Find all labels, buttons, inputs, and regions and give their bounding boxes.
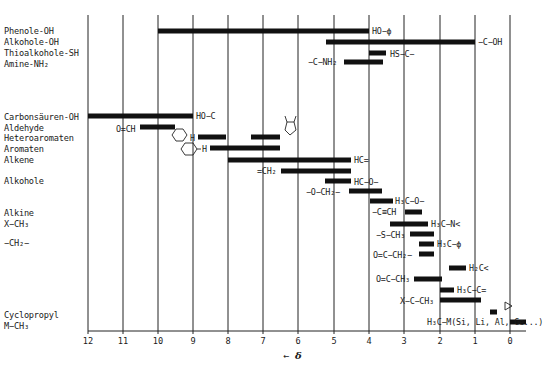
x-axis-title: ← δ	[283, 350, 302, 361]
structure-annotation: −C−NH₂	[308, 58, 337, 67]
category-label: Alkohole	[4, 176, 44, 186]
structure-annotation: =CH₂	[257, 167, 276, 176]
structure-annotation: −C−OH	[478, 38, 502, 47]
range-bar	[326, 40, 475, 45]
structure-annotation: H₃C−ϕ	[437, 240, 461, 249]
structure-annotation: HC=	[354, 156, 369, 165]
x-tick-label: 5	[324, 336, 344, 346]
range-bar	[390, 222, 428, 227]
benzene-icon	[181, 143, 201, 155]
range-bar	[490, 310, 497, 315]
structure-annotation: H₃C−N<	[431, 220, 460, 229]
x-tick-label: 3	[394, 336, 414, 346]
category-label: Alkine	[4, 208, 34, 218]
range-bar	[449, 266, 466, 271]
x-tick-label: 7	[253, 336, 273, 346]
range-bar	[414, 277, 442, 282]
category-label: Carbonsäuren-OH	[4, 112, 79, 122]
structure-annotation: H₃C−O−	[395, 197, 424, 206]
category-label: Heteroaromaten	[4, 133, 74, 143]
range-bar	[349, 189, 382, 194]
category-label: X−CH₃	[4, 219, 29, 229]
x-tick-label: 1	[465, 336, 485, 346]
structure-annotation: H	[202, 145, 207, 154]
category-label: Aldehyde	[4, 123, 44, 133]
category-label: M−CH₃	[4, 321, 29, 331]
structure-annotation: H₃C−C=	[457, 286, 486, 295]
structure-annotation: H₃C−M(Si, Li, Al, Ge...)	[427, 318, 543, 327]
category-label: Thioalkohole-SH	[4, 48, 79, 58]
x-tick-label: 12	[78, 336, 98, 346]
structure-annotation: −S−CH₃	[376, 231, 405, 240]
x-tick-label: 6	[288, 336, 308, 346]
structure-annotation: HS−C−	[390, 50, 414, 59]
structure-annotation: H	[190, 134, 195, 143]
category-label: Alkohole-OH	[4, 37, 59, 47]
arrow-left-icon: ←	[283, 350, 289, 361]
cyclopropane-icon	[505, 302, 512, 310]
range-bar	[158, 29, 369, 34]
x-tick-label: 9	[183, 336, 203, 346]
category-label: Phenole-OH	[4, 26, 54, 36]
shift-range-bars	[88, 29, 526, 325]
structure-annotation: HC−O−	[354, 178, 378, 187]
structure-annotation: H₂C<	[469, 264, 488, 273]
structure-annotation: −O−CH₂−	[306, 188, 340, 197]
x-tick-label: 8	[218, 336, 238, 346]
category-label: Cyclopropyl	[4, 310, 59, 320]
range-bar	[140, 125, 175, 130]
x-tick-label: 4	[359, 336, 379, 346]
range-bar	[251, 135, 280, 140]
category-label: Amine-NH₂	[4, 59, 49, 69]
structure-annotation: HO−C	[196, 112, 215, 121]
structure-annotation: −C≡CH	[372, 208, 396, 217]
range-bar	[440, 298, 481, 303]
range-bar	[405, 210, 422, 215]
structure-annotation: O=CH	[116, 125, 135, 134]
delta-symbol: δ	[295, 350, 302, 361]
range-bar	[325, 179, 351, 184]
category-label: Alkene	[4, 155, 34, 165]
x-tick-label: 0	[500, 336, 520, 346]
range-bar	[419, 252, 434, 257]
pyrrole-icon	[285, 116, 296, 135]
range-bar	[198, 135, 226, 140]
x-tick-label: 11	[113, 336, 133, 346]
range-bar	[344, 60, 383, 65]
range-bar	[210, 146, 280, 151]
structure-annotation: X−C−CH₃	[400, 297, 434, 306]
range-bar	[440, 288, 454, 293]
range-bar	[281, 169, 351, 174]
range-bar	[88, 114, 193, 119]
vertical-gridlines	[88, 15, 510, 334]
category-label: Aromaten	[4, 144, 44, 154]
pyridine-icon	[172, 129, 187, 141]
range-bar	[228, 158, 351, 163]
range-bar	[369, 51, 386, 56]
structure-annotation: O=C−CH₂−	[373, 251, 412, 260]
x-tick-label: 2	[430, 336, 450, 346]
category-label: −CH₂−	[4, 238, 29, 248]
x-tick-label: 10	[148, 336, 168, 346]
structure-annotation: O=C−CH₃	[376, 275, 410, 284]
range-bar	[370, 199, 393, 204]
range-bar	[410, 232, 434, 237]
range-bar	[419, 242, 434, 247]
structure-annotation: HO−ϕ	[372, 27, 391, 36]
